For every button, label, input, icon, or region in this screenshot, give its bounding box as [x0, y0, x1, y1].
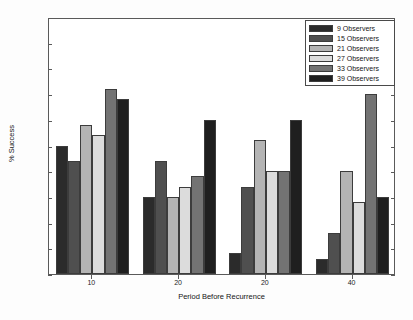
legend-label: 33 Observers [337, 65, 379, 72]
legend: 9 Observers15 Observers21 Observers27 Ob… [305, 20, 395, 86]
x-axis-label: Period Before Recurrence [48, 292, 395, 301]
bar [204, 120, 216, 274]
bar [155, 161, 167, 274]
y-tick-mark [391, 249, 395, 250]
bar [377, 197, 389, 274]
legend-swatch-icon [309, 55, 333, 62]
legend-swatch-icon [309, 65, 333, 72]
bar [266, 171, 278, 274]
legend-label: 9 Observers [337, 25, 375, 32]
y-tick-mark [48, 69, 52, 70]
bar [117, 99, 129, 274]
x-tick-label: 40 [332, 279, 372, 286]
y-tick-mark [48, 275, 52, 276]
legend-label: 15 Observers [337, 35, 379, 42]
legend-item[interactable]: 27 Observers [309, 53, 391, 63]
legend-item[interactable]: 39 Observers [309, 73, 391, 83]
y-tick-mark [48, 172, 52, 173]
legend-swatch-icon [309, 25, 333, 32]
legend-swatch-icon [309, 45, 333, 52]
y-axis-label: % Success [7, 109, 16, 179]
legend-item[interactable]: 33 Observers [309, 63, 391, 73]
y-tick-mark [48, 121, 52, 122]
legend-item[interactable]: 9 Observers [309, 23, 391, 33]
bar [340, 171, 352, 274]
y-tick-mark [48, 44, 52, 45]
bar [191, 176, 203, 274]
y-tick-mark [391, 172, 395, 173]
bar [105, 89, 117, 274]
legend-item[interactable]: 21 Observers [309, 43, 391, 53]
y-tick-mark [391, 275, 395, 276]
bar [316, 259, 328, 274]
x-tick-label: 10 [71, 279, 111, 286]
bar [179, 187, 191, 274]
bar [68, 161, 80, 274]
y-tick-mark [391, 18, 395, 19]
y-tick-mark [48, 224, 52, 225]
bar [254, 140, 266, 274]
y-tick-mark [48, 198, 52, 199]
bar [365, 94, 377, 274]
y-tick-mark [48, 147, 52, 148]
y-tick-mark [48, 249, 52, 250]
bar [278, 171, 290, 274]
y-tick-mark [391, 95, 395, 96]
bar [92, 135, 104, 274]
y-tick-mark [391, 198, 395, 199]
legend-label: 21 Observers [337, 45, 379, 52]
figure-canvas: % Success 50556065707580859095100 102020… [0, 0, 413, 320]
bar [328, 233, 340, 274]
x-tick-label: 20 [245, 279, 285, 286]
bar [353, 202, 365, 274]
x-tick-label: 20 [158, 279, 198, 286]
y-tick-mark [48, 18, 52, 19]
legend-label: 39 Observers [337, 75, 379, 82]
legend-label: 27 Observers [337, 55, 379, 62]
bar [290, 120, 302, 274]
bar [80, 125, 92, 274]
bar [229, 253, 241, 274]
legend-swatch-icon [309, 35, 333, 42]
y-tick-mark [391, 147, 395, 148]
bar [241, 187, 253, 274]
y-tick-mark [391, 121, 395, 122]
bar [167, 197, 179, 274]
bar [56, 146, 68, 275]
legend-item[interactable]: 15 Observers [309, 33, 391, 43]
y-tick-mark [48, 95, 52, 96]
legend-swatch-icon [309, 75, 333, 82]
bar [143, 197, 155, 274]
y-tick-mark [391, 224, 395, 225]
